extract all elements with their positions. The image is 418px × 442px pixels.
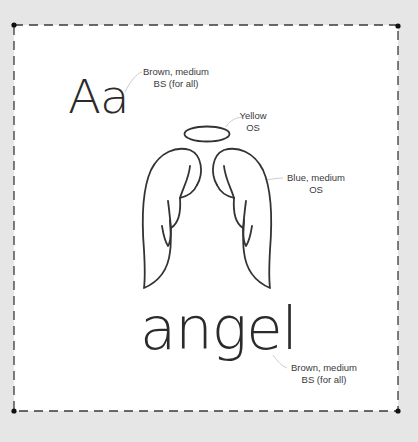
left-wing-icon <box>143 149 201 288</box>
note-wings-stitch: OS <box>281 184 351 196</box>
note-halo-stitch: OS <box>236 122 270 134</box>
note-halo-color: Yellow <box>236 110 270 122</box>
note-halo: Yellow OS <box>236 110 270 134</box>
letter-sample: Aa <box>68 74 129 120</box>
note-letters: Brown, medium BS (for all) <box>140 66 212 90</box>
note-word-color: Brown, medium <box>284 362 364 374</box>
note-letters-color: Brown, medium <box>140 66 212 78</box>
note-wings: Blue, medium OS <box>281 172 351 196</box>
word-sample: angel <box>140 300 297 358</box>
halo-icon <box>185 127 230 142</box>
right-wing-icon <box>213 149 271 288</box>
note-word-stitch: BS (for all) <box>284 374 364 386</box>
note-word: Brown, medium BS (for all) <box>284 362 364 386</box>
note-letters-stitch: BS (for all) <box>140 78 212 90</box>
note-wings-color: Blue, medium <box>281 172 351 184</box>
